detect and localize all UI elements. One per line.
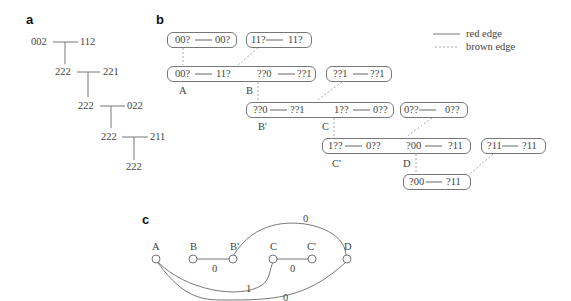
graph-node-B: B <box>190 242 197 253</box>
panel-c-graph <box>0 0 571 301</box>
edge-label-b-bprime: 0 <box>212 264 217 275</box>
graph-node-B-prime: B' <box>230 242 239 253</box>
graph-node-C: C <box>270 242 277 253</box>
graph-node-D: D <box>344 242 352 253</box>
graph-node-C-prime: C' <box>307 242 316 253</box>
edge-label-a-d: 0 <box>283 293 288 301</box>
edge-label-a-c: 1 <box>246 284 251 295</box>
graph-node-A: A <box>152 242 160 253</box>
edge-label-c-cprime: 0 <box>290 264 295 275</box>
edge-label-bprime-d: 0 <box>303 214 308 225</box>
